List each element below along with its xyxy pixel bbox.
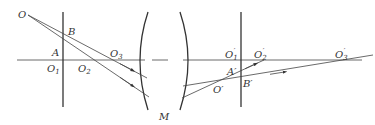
arrow-lower-incident [120, 77, 133, 86]
label-O2: O2 [78, 63, 91, 76]
label-O1-prime: O1′ [225, 47, 238, 62]
arrow-O2prime [245, 64, 256, 69]
label-A: A [51, 47, 59, 58]
label-O2-prime: O2′ [254, 47, 267, 62]
optics-diagram: O B A O1 O2 O3 M O1′ O2′ O3′ A′ B′ O′ [0, 0, 375, 125]
lens-right-surface [180, 12, 188, 110]
arrow-upper-incident [120, 64, 133, 71]
ray-diagram-svg: O B A O1 O2 O3 M O1′ O2′ O3′ A′ B′ O′ [0, 0, 375, 125]
arrow-O3prime [270, 72, 285, 74]
label-B: B [67, 26, 75, 37]
label-O3-prime: O3′ [335, 47, 348, 62]
label-O: O [18, 9, 26, 20]
label-A-prime: A′ [226, 66, 237, 77]
label-O1: O1 [47, 63, 60, 76]
label-B-prime: B′ [242, 78, 253, 89]
label-M: M [158, 111, 170, 122]
label-O-prime: O′ [213, 84, 224, 95]
